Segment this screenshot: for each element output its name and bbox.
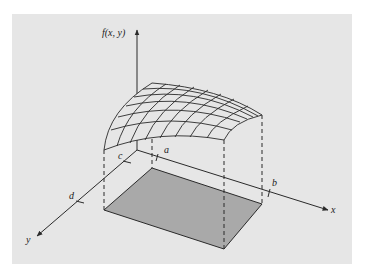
tick-a xyxy=(156,154,158,161)
z-axis-label: f(x, y) xyxy=(102,28,125,38)
surface-diagram xyxy=(0,0,365,277)
tick-label-c: c xyxy=(118,151,122,161)
y-axis xyxy=(37,150,137,236)
tick-label-a: a xyxy=(164,145,169,155)
tick-label-d: d xyxy=(69,191,74,201)
tick-b xyxy=(268,189,270,197)
tick-c xyxy=(123,161,131,163)
y-axis-label: y xyxy=(26,235,30,245)
x-axis-label: x xyxy=(331,205,335,215)
tick-label-b: b xyxy=(272,178,277,188)
base-region xyxy=(104,168,262,249)
surface-mesh xyxy=(104,83,262,150)
